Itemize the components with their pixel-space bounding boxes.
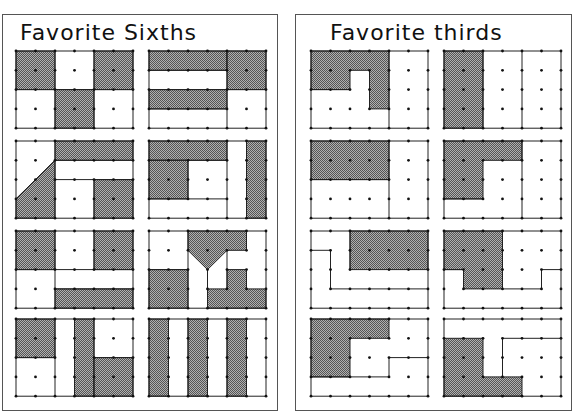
lattice-dot (34, 50, 37, 53)
lattice-dot (427, 230, 430, 233)
lattice-dot (148, 127, 151, 130)
lattice-dot (427, 337, 430, 340)
lattice-dot (521, 88, 524, 91)
lattice-dot (482, 318, 485, 321)
lattice-dot (265, 217, 268, 220)
lattice-dot (112, 337, 115, 340)
lattice-dot (15, 127, 18, 130)
lattice-dot (206, 230, 209, 233)
lattice-dot (245, 318, 248, 321)
lattice-dot (521, 198, 524, 201)
lattice-dot (206, 217, 209, 220)
shaded-region (75, 319, 95, 396)
lattice-dot (245, 288, 248, 291)
lattice-dot (349, 356, 352, 359)
lattice-dot (482, 198, 485, 201)
lattice-dot (329, 356, 332, 359)
lattice-dot (15, 50, 18, 53)
lattice-dot (560, 198, 563, 201)
lattice-dot (132, 178, 135, 181)
lattice-dot (310, 376, 313, 379)
lattice-dot (265, 307, 268, 310)
lattice-dot (73, 198, 76, 201)
lattice-dot (73, 356, 76, 359)
lattice-dot (501, 288, 504, 291)
lattice-dot (540, 178, 543, 181)
grid-svg (443, 318, 562, 397)
lattice-dot (226, 376, 229, 379)
lattice-dot (349, 230, 352, 233)
lattice-dot (349, 140, 352, 143)
shaded-region (16, 160, 55, 218)
lattice-dot (349, 395, 352, 398)
lattice-dot (443, 108, 446, 111)
shaded-region (149, 51, 227, 70)
lattice-dot (265, 376, 268, 379)
lattice-dot (443, 50, 446, 53)
lattice-dot (388, 318, 391, 321)
lattice-dot (560, 178, 563, 181)
lattice-dot (15, 307, 18, 310)
lattice-dot (265, 159, 268, 162)
lattice-dot (112, 318, 115, 321)
lattice-dot (132, 376, 135, 379)
lattice-dot (540, 376, 543, 379)
lattice-dot (15, 108, 18, 111)
fraction-grid-0-4 (15, 230, 134, 313)
lattice-dot (132, 69, 135, 72)
lattice-dot (265, 108, 268, 111)
lattice-dot (462, 230, 465, 233)
lattice-dot (112, 230, 115, 233)
lattice-dot (245, 376, 248, 379)
lattice-dot (206, 337, 209, 340)
lattice-dot (482, 50, 485, 53)
lattice-dot (329, 307, 332, 310)
lattice-dot (148, 178, 151, 181)
lattice-dot (329, 249, 332, 252)
lattice-dot (34, 337, 37, 340)
lattice-dot (265, 178, 268, 181)
lattice-dot (388, 178, 391, 181)
shaded-region (311, 51, 389, 109)
lattice-dot (148, 230, 151, 233)
lattice-dot (462, 108, 465, 111)
grid-svg (148, 318, 267, 397)
lattice-dot (368, 198, 371, 201)
lattice-dot (560, 159, 563, 162)
shaded-region (55, 141, 133, 160)
lattice-dot (34, 88, 37, 91)
lattice-dot (521, 140, 524, 143)
fraction-grid-1-6 (310, 318, 429, 401)
fraction-grid-1-7 (443, 318, 562, 401)
lattice-dot (226, 159, 229, 162)
lattice-dot (349, 249, 352, 252)
lattice-dot (482, 178, 485, 181)
lattice-dot (15, 318, 18, 321)
lattice-dot (427, 178, 430, 181)
lattice-dot (540, 217, 543, 220)
lattice-dot (132, 337, 135, 340)
lattice-dot (93, 318, 96, 321)
lattice-dot (349, 69, 352, 72)
lattice-dot (310, 318, 313, 321)
lattice-dot (54, 159, 57, 162)
lattice-dot (187, 395, 190, 398)
lattice-dot (132, 288, 135, 291)
lattice-dot (15, 140, 18, 143)
lattice-dot (310, 140, 313, 143)
lattice-dot (206, 307, 209, 310)
lattice-dot (148, 88, 151, 91)
lattice-dot (148, 395, 151, 398)
lattice-dot (521, 108, 524, 111)
lattice-dot (54, 88, 57, 91)
lattice-dot (187, 337, 190, 340)
lattice-dot (521, 127, 524, 130)
lattice-dot (148, 217, 151, 220)
lattice-dot (112, 249, 115, 252)
lattice-dot (329, 178, 332, 181)
lattice-dot (206, 50, 209, 53)
lattice-dot (226, 356, 229, 359)
shaded-region (227, 319, 247, 396)
lattice-dot (54, 198, 57, 201)
lattice-dot (245, 395, 248, 398)
